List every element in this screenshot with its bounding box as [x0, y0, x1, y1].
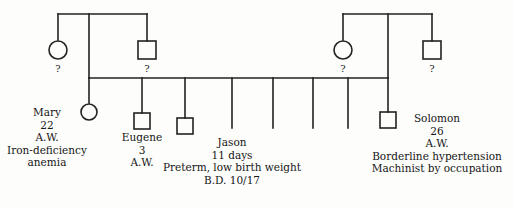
left-grandmother-unknown-label: ? — [51, 64, 65, 74]
mary-condition-1: Iron-deficiency — [7, 144, 87, 157]
pedigree-diagram: ? ? ? ? Mary 22 A.W. Iron-deficiency ane… — [0, 0, 514, 208]
right-grandfather-square — [423, 41, 441, 59]
jason-name: Jason — [163, 136, 301, 149]
jason-condition: Preterm, low birth weight — [163, 161, 301, 174]
solomon-name: Solomon — [372, 112, 503, 125]
eugene-age: 3 — [122, 144, 162, 157]
left-grandfather-square — [138, 41, 156, 59]
left-grandfather-unknown-label: ? — [140, 64, 154, 74]
mary-condition-2: anemia — [7, 156, 87, 169]
right-grandmother-unknown-label: ? — [336, 64, 350, 74]
eugene-annotation: Eugene 3 A.W. — [122, 131, 162, 169]
left-grandmother-circle — [49, 41, 67, 59]
solomon-age: 26 — [372, 125, 503, 138]
mary-annotation: Mary 22 A.W. Iron-deficiency anemia — [7, 106, 87, 169]
eugene-square — [134, 113, 150, 129]
solomon-initials: A.W. — [372, 137, 503, 150]
eugene-initials: A.W. — [122, 156, 162, 169]
mary-initials: A.W. — [7, 131, 87, 144]
eugene-name: Eugene — [122, 131, 162, 144]
jason-annotation: Jason 11 days Preterm, low birth weight … — [163, 136, 301, 186]
mary-name: Mary — [7, 106, 87, 119]
right-grandfather-unknown-label: ? — [425, 64, 439, 74]
solomon-annotation: Solomon 26 A.W. Borderline hypertension … — [372, 112, 503, 175]
jason-age: 11 days — [163, 149, 301, 162]
child-3-square — [177, 118, 193, 134]
solomon-occupation: Machinist by occupation — [372, 162, 503, 175]
right-grandmother-circle — [334, 41, 352, 59]
solomon-condition: Borderline hypertension — [372, 150, 503, 163]
jason-birth-date: B.D. 10/17 — [163, 174, 301, 187]
mary-age: 22 — [7, 119, 87, 132]
